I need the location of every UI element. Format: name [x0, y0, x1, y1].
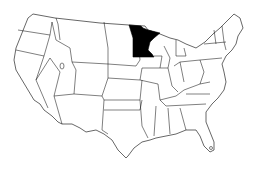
lake-okeechobee — [210, 147, 213, 150]
us-map — [0, 0, 259, 173]
us-outline — [14, 14, 243, 158]
great-salt-lake — [60, 63, 64, 69]
